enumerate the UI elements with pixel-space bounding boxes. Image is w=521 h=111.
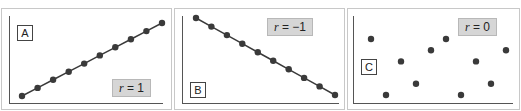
r-value: = 0 — [470, 20, 490, 34]
r-value: = −1 — [279, 20, 306, 34]
data-point — [270, 58, 276, 64]
data-point — [193, 15, 199, 21]
data-point — [413, 81, 419, 87]
correlation-label-b: r = −1 — [267, 18, 313, 36]
data-point — [488, 81, 494, 87]
r-value: = 1 — [124, 81, 144, 95]
data-point — [128, 36, 134, 42]
data-point — [255, 49, 261, 55]
data-point — [383, 92, 389, 98]
panel-b: B r = −1 — [173, 0, 346, 111]
data-point — [398, 58, 404, 64]
data-point — [143, 28, 149, 34]
data-point — [443, 36, 449, 42]
data-point — [239, 41, 245, 47]
data-point — [208, 23, 214, 29]
data-point — [458, 92, 464, 98]
panel-c: C r = 0 — [346, 0, 521, 111]
panel-label-b: B — [190, 82, 206, 98]
trend-line — [196, 18, 335, 95]
panel-label-a: A — [17, 25, 33, 41]
data-point — [224, 32, 230, 38]
data-point — [428, 47, 434, 53]
data-point — [301, 75, 307, 81]
data-point — [368, 36, 374, 42]
data-point — [50, 77, 56, 83]
data-point — [19, 93, 25, 99]
data-point — [66, 69, 72, 75]
data-point — [81, 60, 87, 66]
correlation-label-c: r = 0 — [458, 18, 497, 36]
scatter-plot-c — [346, 0, 521, 111]
panel-a: A r = 1 — [0, 0, 173, 111]
data-point — [159, 20, 165, 26]
correlation-label-a: r = 1 — [112, 79, 151, 97]
data-point — [332, 92, 338, 98]
data-point — [503, 47, 509, 53]
data-point — [97, 52, 103, 58]
panel-label-c: C — [361, 59, 377, 75]
data-point — [316, 83, 322, 89]
data-point — [286, 66, 292, 72]
data-point — [112, 44, 118, 50]
data-point — [473, 58, 479, 64]
data-point — [34, 85, 40, 91]
